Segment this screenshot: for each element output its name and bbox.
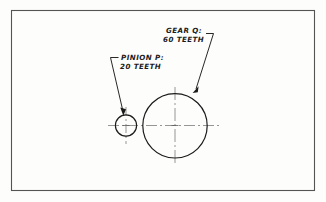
gear-pair-diagram: PINION P: 20 TEETH GEAR Q: 60 TEETH (0, 0, 326, 202)
pinion-label-line1: PINION P: (121, 53, 164, 62)
gear-leader-arrowhead (193, 86, 199, 93)
gear-label-line1: GEAR Q: (166, 26, 202, 35)
drawing-sheet: PINION P: 20 TEETH GEAR Q: 60 TEETH (0, 0, 326, 202)
pinion-label-line2: 20 TEETH (120, 62, 161, 71)
gear-label-line2: 60 TEETH (163, 35, 204, 44)
